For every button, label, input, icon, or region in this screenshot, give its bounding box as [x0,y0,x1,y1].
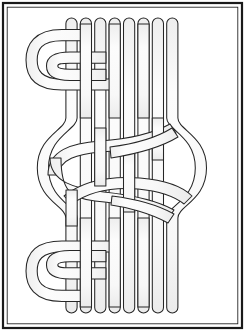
strand-6-over-top [138,24,149,118]
strand-1-over-knot [66,190,77,226]
strand-7 [152,18,163,313]
strand-4-over-top [109,24,120,118]
strand-2-over-top [80,24,91,118]
strand-4-over-bottom [109,218,120,307]
strand-3-over-knot [95,128,106,186]
strand-2-over-bottom [80,218,91,307]
knot-illustration-canvas [0,0,245,331]
strand-6-over-bottom [138,218,149,307]
knot-drawing [0,0,245,331]
